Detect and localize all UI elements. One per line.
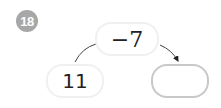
arc-right-arrow xyxy=(160,45,178,61)
start-value-box: 11 xyxy=(46,64,104,98)
answer-input-box[interactable] xyxy=(151,64,209,98)
arc-left xyxy=(75,44,96,62)
operation-box: −7 xyxy=(95,22,159,56)
